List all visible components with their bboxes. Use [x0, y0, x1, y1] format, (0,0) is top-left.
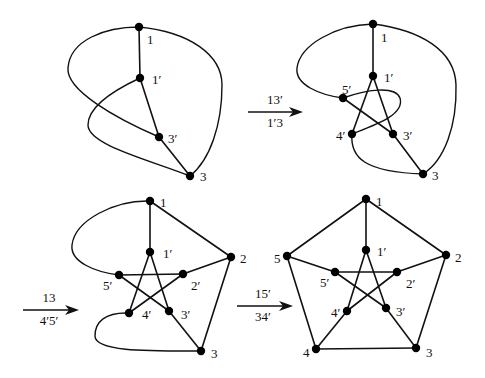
edge-1p-4p: [352, 76, 373, 134]
curve-1p-to-3: [88, 78, 190, 176]
edge-5p-2p: [119, 274, 183, 275]
vertex-label-2p: 2′: [191, 278, 201, 293]
vertex-3p: [389, 130, 397, 138]
vertex-3: [197, 347, 205, 355]
arrow-top-label: 13′: [267, 92, 283, 107]
panel-1: 11′3′3: [68, 23, 222, 184]
edge-5-4: [287, 256, 316, 349]
vertex-4p: [125, 309, 133, 317]
vertex-4p: [348, 130, 356, 138]
vertex-label-1p: 1′: [377, 244, 387, 259]
vertex-label-3p: 3′: [403, 128, 413, 143]
vertex-label-2: 2: [455, 250, 462, 265]
vertex-1: [146, 197, 154, 205]
edge-1p-4p: [347, 250, 366, 311]
vertex-4p: [343, 307, 351, 315]
edge-4-3: [316, 348, 416, 349]
arrow-top-label: 15′: [255, 286, 271, 301]
edge-2-3: [201, 257, 231, 351]
vertex-3: [419, 170, 427, 178]
edge-5p-3p: [343, 98, 393, 134]
vertex-label-1: 1: [376, 194, 383, 209]
vertex-3p: [165, 307, 173, 315]
arrow-step-3: 15′34′: [237, 286, 293, 324]
vertex-label-4p: 4′: [142, 307, 152, 322]
vertex-1p: [362, 246, 370, 254]
arrow-bottom-label: 4′5′: [40, 313, 59, 328]
arrow-step-2: 134′5′: [23, 290, 79, 328]
edge-2p-4p: [347, 272, 397, 311]
vertex-label-5p: 5′: [342, 82, 352, 97]
vertex-label-4: 4: [303, 345, 310, 360]
panel-2: 11′5′4′3′3: [297, 20, 456, 183]
panel-3: 11′25′2′4′3′3: [72, 195, 247, 361]
vertex-label-1: 1: [147, 32, 154, 47]
vertex-label-1: 1: [160, 195, 167, 210]
vertex-3: [186, 172, 194, 180]
edge-2-2p: [397, 255, 446, 272]
edge-5-5p: [287, 256, 335, 272]
curve-1-to-5p: [72, 201, 150, 275]
curve-1-to-3p: [68, 27, 159, 137]
panel-4: 11′525′2′4′3′43: [274, 194, 462, 360]
curve-1-to-3-right: [139, 27, 222, 176]
vertex-label-3: 3: [211, 346, 218, 361]
vertex-label-1p: 1′: [152, 72, 162, 87]
vertex-5p: [115, 271, 123, 279]
curve-1-to-3-right: [373, 24, 456, 174]
vertex-label-1: 1: [381, 30, 388, 45]
edge-1-5: [287, 199, 366, 256]
arrow-step-1: 13′1′3: [248, 92, 303, 130]
vertex-2p: [393, 268, 401, 276]
vertex-label-5: 5: [274, 251, 281, 266]
edge-5p-3p: [335, 272, 386, 308]
vertex-3p: [155, 133, 163, 141]
curve-5p-loop-to-4p: [343, 90, 401, 134]
arrow-bottom-label: 1′3: [267, 115, 283, 130]
vertex-1p: [146, 248, 154, 256]
vertex-4: [312, 345, 320, 353]
diagram-canvas: 11′3′311′5′4′3′311′25′2′4′3′311′525′2′4′…: [0, 0, 485, 378]
vertex-2: [442, 251, 450, 259]
edge-1-1p: [139, 27, 140, 78]
edge-2p-4p: [129, 274, 183, 313]
vertex-label-5p: 5′: [320, 275, 330, 290]
edge-1p-4p: [129, 252, 150, 313]
vertex-label-4p: 4′: [336, 128, 346, 143]
vertex-label-5p: 5′: [103, 278, 113, 293]
vertex-label-2p: 2′: [406, 276, 416, 291]
vertex-label-3: 3: [200, 169, 207, 184]
arrow-bottom-label: 34′: [255, 309, 271, 324]
edge-2-2p: [183, 257, 231, 274]
vertex-label-3p: 3′: [396, 304, 406, 319]
vertex-5p: [331, 268, 339, 276]
vertex-5: [283, 252, 291, 260]
vertex-label-3: 3: [432, 168, 439, 183]
vertex-1p: [136, 74, 144, 82]
vertex-label-4p: 4′: [331, 305, 341, 320]
vertex-2p: [179, 270, 187, 278]
vertex-label-1p: 1′: [163, 246, 173, 261]
vertex-label-3p: 3′: [168, 131, 178, 146]
vertex-2: [227, 253, 235, 261]
vertex-1p: [369, 72, 377, 80]
vertex-1: [362, 195, 370, 203]
vertex-1: [135, 23, 143, 31]
vertex-3p: [382, 304, 390, 312]
edge-5p-3p: [119, 275, 169, 311]
vertex-1: [369, 20, 377, 28]
vertex-label-3: 3: [426, 345, 433, 360]
vertex-label-1p: 1′: [384, 70, 394, 85]
petersen-graph-construction: 11′3′311′5′4′3′311′25′2′4′3′311′525′2′4′…: [0, 0, 485, 378]
arrow-top-label: 13: [43, 290, 56, 305]
vertex-label-2: 2: [240, 251, 247, 266]
curve-1-to-5p: [297, 24, 373, 98]
vertex-3: [412, 344, 420, 352]
edge-2-3: [416, 255, 446, 348]
vertex-label-3p: 3′: [181, 307, 191, 322]
